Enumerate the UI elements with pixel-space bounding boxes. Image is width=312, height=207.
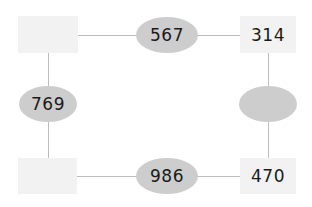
connector-top-left-to-left-oval [48,53,49,87]
edge-top-oval: 567 [136,17,198,53]
edge-bottom-oval: 986 [136,158,198,194]
node-bottom-right-label: 470 [251,166,285,186]
connector-top-right-to-right-oval [268,53,269,87]
edge-right-oval [239,86,297,122]
connector-bottom-oval-to-bottom-right [197,176,240,177]
edge-left-label: 769 [31,94,65,114]
node-bottom-left [18,158,77,194]
edge-bottom-label: 986 [150,166,184,186]
node-top-right-label: 314 [251,25,285,45]
edge-left-oval: 769 [19,86,77,122]
node-top-left [18,16,78,53]
connector-bottom-left-to-bottom-oval [77,176,137,177]
connector-left-oval-to-bottom-left [48,121,49,158]
node-bottom-right: 470 [240,158,296,194]
connector-right-oval-to-bottom-right [268,121,269,158]
node-top-right: 314 [240,16,296,53]
connector-top-oval-to-top-right [197,35,240,36]
connector-top-left-to-top-oval [78,35,138,36]
edge-top-label: 567 [150,25,184,45]
